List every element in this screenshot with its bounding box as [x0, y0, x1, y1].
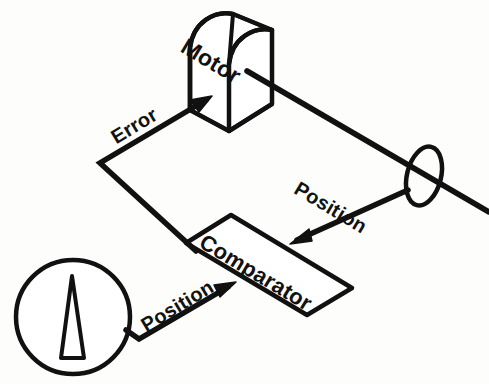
diagram-canvas: Motor Comparator Error Position Position [0, 0, 489, 384]
diagram-svg [0, 0, 489, 384]
output-shaft [247, 71, 489, 212]
position-feedback-arrowhead [290, 229, 312, 244]
